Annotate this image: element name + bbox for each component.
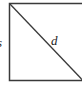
side-label: s [0,35,2,50]
diagonal-line [10,4,83,81]
square-diagram: s d [0,0,82,85]
diagonal-label: d [51,33,58,48]
